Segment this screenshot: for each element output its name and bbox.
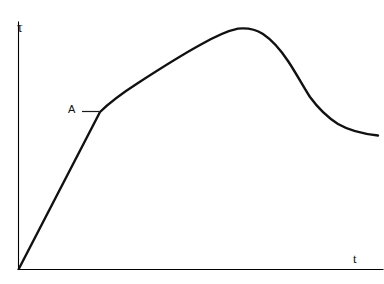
- x-axis-label: t: [353, 252, 357, 265]
- shear-stress-curve: [19, 28, 378, 268]
- stress-time-plot: [0, 0, 384, 284]
- figure-root: τ t A: [0, 0, 384, 284]
- point-a-annotation-label: A: [68, 104, 75, 115]
- y-axis-label: τ: [17, 21, 23, 35]
